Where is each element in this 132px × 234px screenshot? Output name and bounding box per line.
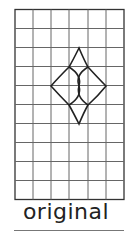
label-underline <box>14 230 124 231</box>
figure-label: original <box>0 199 132 224</box>
